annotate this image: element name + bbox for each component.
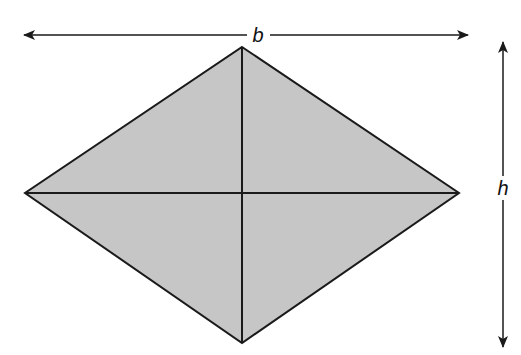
width-label: b xyxy=(252,24,263,46)
rhombus-diagram: b h xyxy=(0,0,521,355)
height-label: h xyxy=(497,177,508,199)
